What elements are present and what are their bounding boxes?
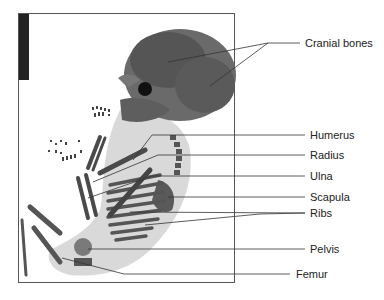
label-femur: Femur: [296, 268, 328, 280]
skeleton-diagram: Cranial bones Humerus Radius Ulna Scapul…: [0, 0, 384, 300]
label-ulna: Ulna: [310, 170, 333, 182]
dark-edge: [19, 14, 29, 80]
label-radius: Radius: [310, 149, 344, 161]
label-pelvis: Pelvis: [310, 243, 339, 255]
label-scapula: Scapula: [310, 191, 350, 203]
label-ribs: Ribs: [310, 207, 332, 219]
orbit: [138, 82, 152, 96]
skull: [118, 29, 236, 122]
label-humerus: Humerus: [310, 129, 355, 141]
pelvis-bone: [74, 238, 92, 256]
femur-bone: [34, 228, 60, 262]
label-cranial-bones: Cranial bones: [305, 37, 373, 49]
